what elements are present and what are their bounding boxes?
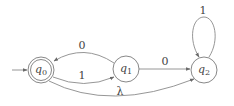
edge-q1-q0 [54, 52, 114, 63]
edge-label-q2-q2: 1 [200, 4, 207, 17]
automaton-diagram: 0 1 0 1 λ q0 q1 q2 [0, 0, 234, 106]
edge-q2-q2 [193, 17, 216, 57]
state-q2: q2 [191, 57, 217, 83]
edge-label-q0-q1: 1 [79, 69, 86, 82]
edge-label-q0-q2: λ [117, 85, 124, 98]
edge-label-q1-q0: 0 [79, 39, 86, 52]
edge-label-q1-q2: 0 [162, 55, 169, 68]
state-q0: q0 [28, 57, 54, 83]
state-q1: q1 [113, 56, 139, 82]
